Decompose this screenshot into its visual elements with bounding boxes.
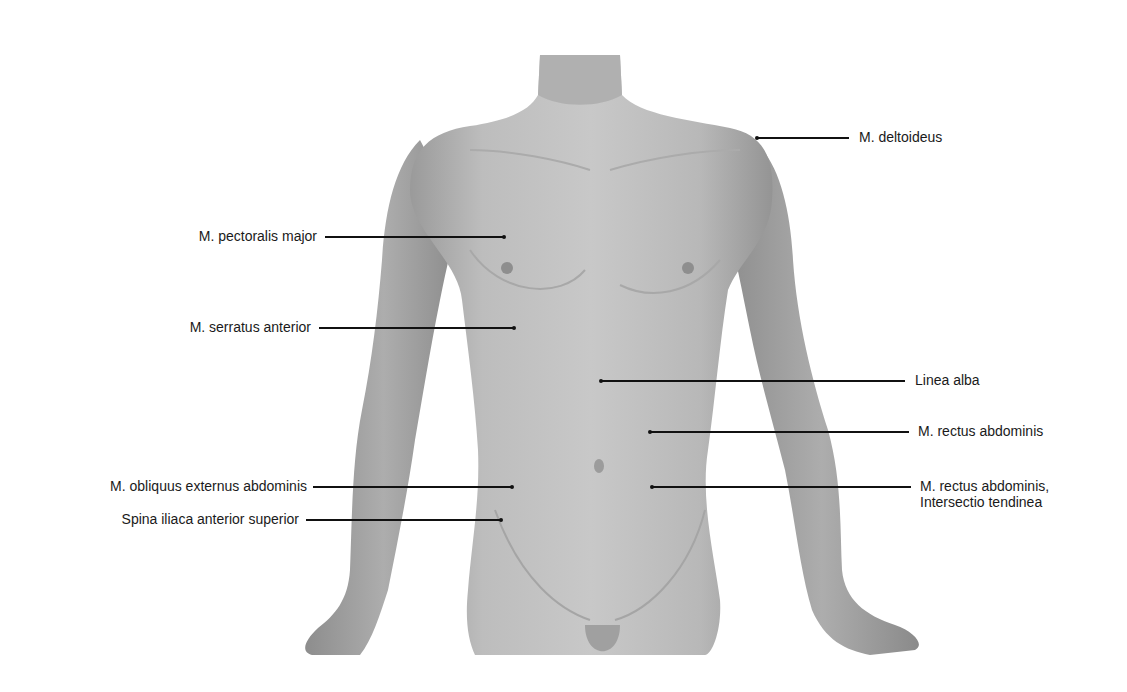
nipple bbox=[501, 262, 513, 274]
label-rectus-abdominis: M. rectus abdominis bbox=[918, 423, 1043, 439]
label-linea-alba: Linea alba bbox=[915, 372, 980, 388]
torso bbox=[410, 55, 773, 655]
leader-line-pectoralis-major bbox=[325, 236, 504, 238]
torso-figure bbox=[0, 0, 1127, 692]
leader-dot-obliquus-externus bbox=[510, 485, 514, 489]
leader-line-rectus-abdominis bbox=[650, 431, 909, 433]
leader-line-obliquus-externus bbox=[313, 486, 512, 488]
leader-line-serratus-anterior bbox=[319, 327, 514, 329]
leader-line-rectus-intersectio bbox=[652, 486, 911, 488]
nipple bbox=[682, 262, 694, 274]
label-deltoideus: M. deltoideus bbox=[859, 129, 942, 145]
leader-dot-rectus-intersectio bbox=[650, 485, 654, 489]
label-pectoralis-major: M. pectoralis major bbox=[199, 228, 317, 244]
leader-line-deltoideus bbox=[757, 137, 849, 139]
leader-line-linea-alba bbox=[601, 380, 905, 382]
leader-dot-linea-alba bbox=[599, 379, 603, 383]
leader-dot-pectoralis-major bbox=[502, 235, 506, 239]
leader-dot-deltoideus bbox=[755, 136, 759, 140]
neck bbox=[538, 55, 622, 105]
leader-dot-rectus-abdominis bbox=[648, 430, 652, 434]
label-rectus-intersectio: M. rectus abdominis,Intersectio tendinea bbox=[920, 478, 1049, 510]
navel bbox=[594, 459, 604, 473]
leader-line-spina-iliaca bbox=[306, 519, 501, 521]
label-serratus-anterior: M. serratus anterior bbox=[190, 319, 311, 335]
leader-dot-serratus-anterior bbox=[512, 326, 516, 330]
label-spina-iliaca: Spina iliaca anterior superior bbox=[122, 511, 299, 527]
label-obliquus-externus: M. obliquus externus abdominis bbox=[110, 478, 307, 494]
label-rectus-intersectio-line2: Intersectio tendinea bbox=[920, 494, 1042, 510]
leader-dot-spina-iliaca bbox=[499, 518, 503, 522]
